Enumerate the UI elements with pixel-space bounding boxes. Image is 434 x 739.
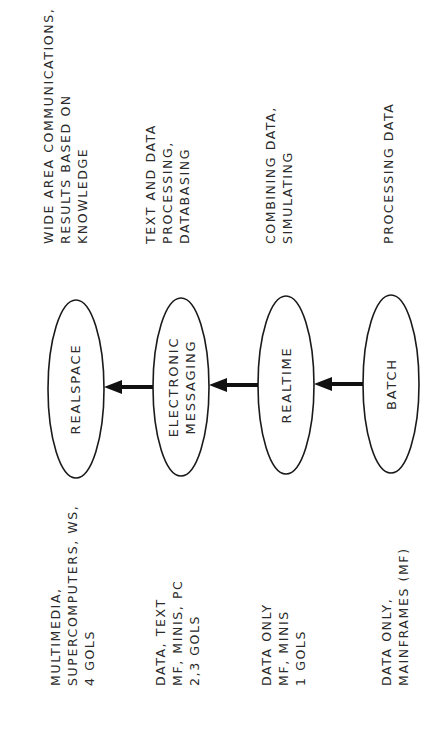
svg-text:MAINFRAMES (MF): MAINFRAMES (MF) [396, 547, 411, 686]
svg-text:2,3 GOLS: 2,3 GOLS [187, 615, 202, 686]
svg-text:COMBINING DATA,: COMBINING DATA, [263, 106, 278, 244]
svg-text:DATABASING: DATABASING [177, 148, 192, 244]
node-label-electronic-messaging: ELECTRONIC [166, 337, 181, 438]
platform-realspace: MULTIMEDIA, SUPERCOMPUTERS, WS, 4 GOLS [48, 505, 97, 686]
capability-electronic-messaging: TEXT AND DATA PROCESSING, DATABASING [143, 124, 192, 245]
svg-text:1 GOLS: 1 GOLS [293, 630, 308, 686]
node-label-batch: BATCH [384, 358, 399, 410]
node-label-realtime: REALTIME [279, 346, 294, 423]
svg-text:DATA ONLY: DATA ONLY [259, 603, 274, 686]
capability-batch: PROCESSING DATA [381, 103, 396, 244]
platform-batch: DATA ONLY, MAINFRAMES (MF) [379, 547, 411, 686]
svg-text:TEXT AND DATA: TEXT AND DATA [143, 124, 158, 245]
diagram-canvas: REALSPACE ELECTRONIC MESSAGING REALTIME … [0, 0, 434, 739]
capability-realspace: WIDE AREA COMMUNICATIONS, RESULTS BASED … [41, 8, 90, 244]
svg-text:PROCESSING,: PROCESSING, [160, 141, 175, 244]
arrow-batch-to-realtime [314, 377, 363, 391]
svg-text:KNOWLEDGE: KNOWLEDGE [75, 148, 90, 244]
svg-text:SUPERCOMPUTERS, WS,: SUPERCOMPUTERS, WS, [65, 505, 80, 686]
node-label-realspace: REALSPACE [68, 344, 83, 435]
arrow-em-to-realspace [104, 380, 153, 394]
svg-text:4 GOLS: 4 GOLS [82, 630, 97, 686]
svg-text:DATA, TEXT: DATA, TEXT [153, 598, 168, 686]
svg-text:SIMULATING: SIMULATING [280, 151, 295, 244]
svg-text:MF, MINIS, PC: MF, MINIS, PC [170, 580, 185, 686]
svg-text:PROCESSING DATA: PROCESSING DATA [381, 103, 396, 244]
node-electronic-messaging [153, 298, 209, 476]
svg-text:WIDE AREA COMMUNICATIONS,: WIDE AREA COMMUNICATIONS, [41, 8, 56, 244]
node-label-electronic-messaging-2: MESSAGING [183, 340, 198, 435]
svg-text:MULTIMEDIA,: MULTIMEDIA, [48, 587, 63, 686]
svg-text:MF, MINIS: MF, MINIS [276, 610, 291, 686]
platform-realtime: DATA ONLY MF, MINIS 1 GOLS [259, 603, 308, 686]
svg-text:RESULTS BASED ON: RESULTS BASED ON [58, 94, 73, 244]
platform-electronic-messaging: DATA, TEXT MF, MINIS, PC 2,3 GOLS [153, 580, 202, 686]
capability-realtime: COMBINING DATA, SIMULATING [263, 106, 295, 244]
svg-text:DATA ONLY,: DATA ONLY, [379, 598, 394, 686]
arrow-realtime-to-em [209, 378, 258, 392]
